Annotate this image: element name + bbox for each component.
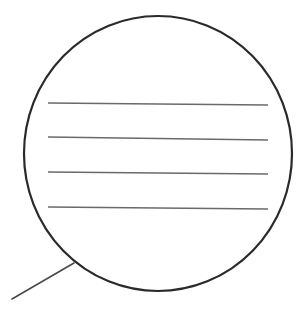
callout-svg: [0, 0, 304, 311]
callout-tail: [12, 263, 74, 299]
callout-bubble: [24, 16, 292, 291]
callout-diagram: [0, 0, 304, 311]
